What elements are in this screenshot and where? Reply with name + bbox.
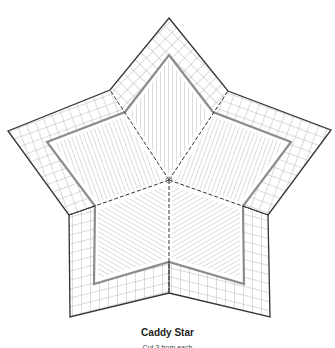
caddy-star-diagram: Caddy Star Cut 3 from each <box>0 0 335 348</box>
diagram-title: Caddy Star <box>0 327 335 338</box>
diagram-subtitle: Cut 3 from each <box>0 342 335 348</box>
star-pattern-drawing <box>0 0 335 330</box>
